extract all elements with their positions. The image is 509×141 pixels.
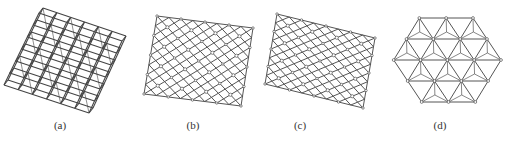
- panel-b-label: (b): [187, 119, 200, 131]
- panel-b-octet-lattice: [143, 15, 254, 107]
- panel-d-label: (d): [434, 119, 447, 131]
- panel-c-label: (c): [294, 119, 306, 131]
- panel-a-cubic-lattice: [4, 8, 126, 113]
- panel-d-hexagonal-lattice: [392, 17, 502, 104]
- panel-c-octet-lattice: [264, 13, 376, 109]
- panel-a-label: (a): [54, 119, 66, 131]
